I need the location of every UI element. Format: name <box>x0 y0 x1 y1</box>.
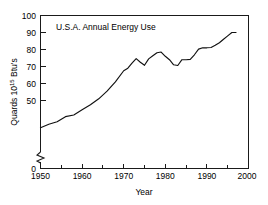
x-tick-label-1980: 1980 <box>156 171 175 181</box>
y-tick-label-100: 100 <box>22 11 36 21</box>
energy-use-line-series <box>41 33 237 128</box>
x-tick-label-2000: 2000 <box>238 171 257 181</box>
x-tick-label-1950: 1950 <box>31 171 50 181</box>
x-tick-label-1970: 1970 <box>114 171 133 181</box>
y-axis-title: Quards 1015 Btu's <box>9 58 19 125</box>
y-axis-break-icon <box>37 152 44 163</box>
svg-text:Quards 1015 Btu's: Quards 1015 Btu's <box>9 58 19 125</box>
energy-use-chart-figure: 100 90 80 70 60 50 0 1950 1 <box>0 0 268 205</box>
y-tick-label-80: 80 <box>27 45 37 55</box>
y-axis-title-tail: Btu's <box>9 58 19 79</box>
y-tick-label-70: 70 <box>27 62 37 72</box>
y-tick-label-50: 50 <box>27 96 37 106</box>
x-axis-minor-ticks <box>61 165 227 169</box>
axes-spines <box>41 15 249 169</box>
plot-title: U.S.A. Annual Energy Use <box>56 22 156 32</box>
y-tick-label-90: 90 <box>27 28 37 38</box>
y-axis-ticks <box>41 16 46 169</box>
chart-canvas: 100 90 80 70 60 50 0 1950 1 <box>0 0 268 205</box>
x-tick-label-1960: 1960 <box>73 171 92 181</box>
x-axis-title: Year <box>135 187 152 197</box>
y-axis-title-main: Quards 10 <box>9 86 19 126</box>
y-tick-label-60: 60 <box>27 79 37 89</box>
x-tick-label-1990: 1990 <box>197 171 216 181</box>
x-axis-tick-labels: 1950 1960 1970 1980 1990 2000 <box>31 171 257 181</box>
y-axis-tick-labels: 100 90 80 70 60 50 0 <box>22 11 36 174</box>
